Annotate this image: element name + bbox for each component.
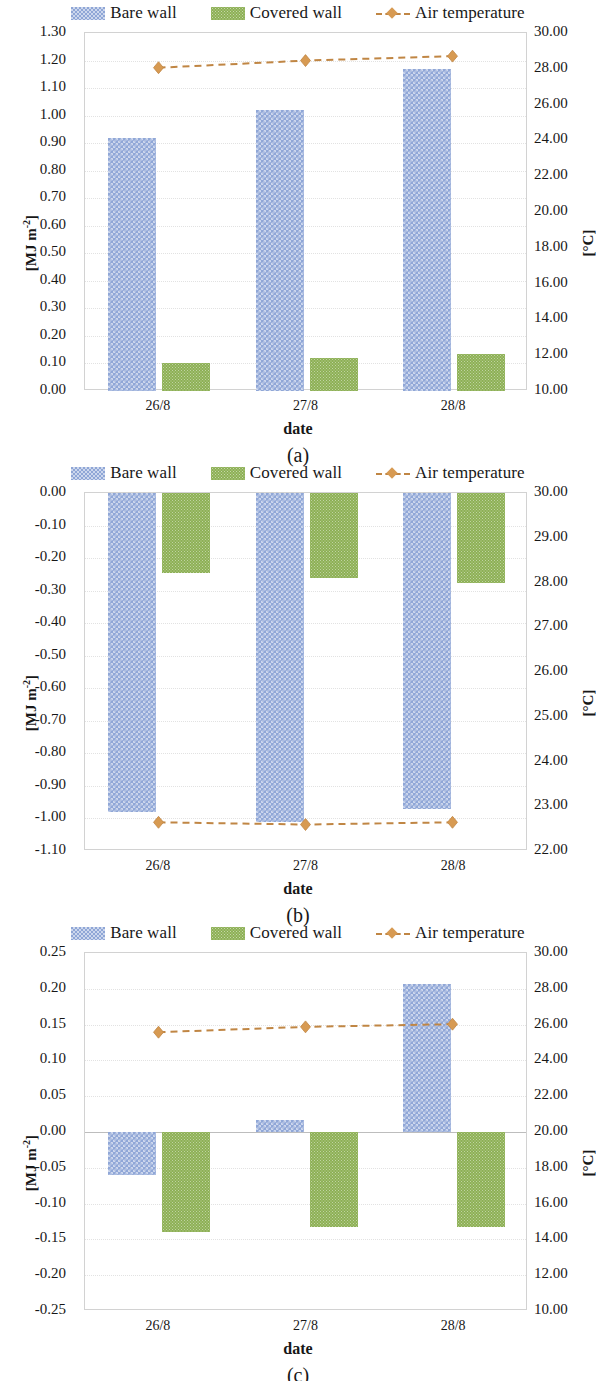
legend-label: Bare wall [110, 923, 177, 943]
plot-area [84, 32, 527, 390]
chart-panel-c: Bare wallCovered wallAir temperature[MJ … [0, 920, 596, 1380]
air-temperature-marker [448, 50, 458, 62]
y2-tick-label: 10.00 [534, 1302, 596, 1317]
y-tick-label: 1.30 [6, 24, 66, 39]
bare-wall-swatch [71, 7, 105, 20]
y-tick-label: 1.10 [6, 79, 66, 94]
legend-item-1[interactable]: Covered wall [211, 3, 342, 23]
x-tick-label: 26/8 [118, 1318, 198, 1334]
air-temperature-marker [154, 816, 164, 828]
y2-tick-label: 14.00 [534, 310, 596, 325]
y-tick-label: -1.10 [6, 842, 66, 857]
legend-item-0[interactable]: Bare wall [71, 923, 177, 943]
air-temperature-marker [301, 55, 311, 67]
y2-tick-label: 26.00 [534, 96, 596, 111]
y2-tick-label: 16.00 [534, 1195, 596, 1210]
y-tick-label: 0.70 [6, 189, 66, 204]
legend-label: Covered wall [250, 3, 342, 23]
legend-item-2[interactable]: Air temperature [376, 3, 525, 23]
y2-tick-label: 28.00 [534, 980, 596, 995]
y-tick-label: -0.05 [6, 1159, 66, 1174]
y2-tick-label: 16.00 [534, 275, 596, 290]
y-tick-label: -0.60 [6, 679, 66, 694]
chart-panel-a: Bare wallCovered wallAir temperature[MJ … [0, 0, 596, 460]
legend-label: Bare wall [110, 463, 177, 483]
legend-item-0[interactable]: Bare wall [71, 3, 177, 23]
plot-area-wrapper: [MJ m-2][°C]-1.10-1.00-0.90-0.80-0.70-0.… [0, 486, 596, 920]
y-tick-label: 0.20 [6, 980, 66, 995]
y2-tick-label: 24.00 [534, 753, 596, 768]
y2-tick-label: 25.00 [534, 708, 596, 723]
plot-area [84, 952, 527, 1310]
y-tick-label: -1.00 [6, 809, 66, 824]
y2-tick-label: 30.00 [534, 24, 596, 39]
legend-item-2[interactable]: Air temperature [376, 923, 525, 943]
covered-wall-swatch [211, 467, 245, 480]
y-tick-label: 0.05 [6, 1087, 66, 1102]
y-tick-label: -0.20 [6, 1266, 66, 1281]
y2-tick-label: 26.00 [534, 1016, 596, 1031]
y-tick-label: 0.15 [6, 1016, 66, 1031]
y-tick-label: -0.90 [6, 777, 66, 792]
x-tick-label: 27/8 [266, 398, 346, 414]
x-tick-label: 27/8 [266, 1318, 346, 1334]
y-tick-label: 0.20 [6, 327, 66, 342]
legend-label: Covered wall [250, 463, 342, 483]
legend-item-1[interactable]: Covered wall [211, 923, 342, 943]
y2-tick-label: 26.00 [534, 663, 596, 678]
bare-wall-swatch [71, 927, 105, 940]
legend-item-2[interactable]: Air temperature [376, 463, 525, 483]
y2-tick-label: 22.00 [534, 1087, 596, 1102]
air-temperature-line-marker [376, 467, 410, 480]
y-tick-label: -0.80 [6, 744, 66, 759]
legend-label: Air temperature [415, 3, 525, 23]
y2-tick-label: 12.00 [534, 1266, 596, 1281]
y-tick-label: -0.20 [6, 549, 66, 564]
bare-wall-swatch [71, 467, 105, 480]
air-temperature-marker [301, 819, 311, 831]
legend-label: Covered wall [250, 923, 342, 943]
y-tick-label: -0.70 [6, 712, 66, 727]
air-temperature-line-marker [376, 7, 410, 20]
x-axis-title: date [0, 880, 596, 898]
legend-label: Bare wall [110, 3, 177, 23]
legend-item-1[interactable]: Covered wall [211, 463, 342, 483]
plot-area-wrapper: [MJ m-2][°C]0.000.100.200.300.400.500.60… [0, 26, 596, 460]
plot-area [84, 492, 527, 850]
y2-tick-label: 22.00 [534, 842, 596, 857]
x-tick-label: 28/8 [413, 858, 493, 874]
y2-tick-label: 20.00 [534, 203, 596, 218]
y-tick-label: 0.40 [6, 272, 66, 287]
air-temperature-marker [448, 1018, 458, 1030]
y-tick-label: 0.00 [6, 382, 66, 397]
y-tick-label: -0.15 [6, 1230, 66, 1245]
y-tick-label: -0.10 [6, 517, 66, 532]
y-tick-label: 0.50 [6, 244, 66, 259]
panel-letter: (c) [0, 1364, 596, 1381]
x-tick-label: 26/8 [118, 858, 198, 874]
x-tick-label: 28/8 [413, 1318, 493, 1334]
air-temperature-marker [448, 816, 458, 828]
y-tick-label: 0.00 [6, 1123, 66, 1138]
y-tick-label: 0.00 [6, 484, 66, 499]
y-tick-label: 0.80 [6, 162, 66, 177]
y2-tick-label: 18.00 [534, 1159, 596, 1174]
y-tick-label: 0.25 [6, 944, 66, 959]
y2-tick-label: 14.00 [534, 1230, 596, 1245]
y2-tick-label: 30.00 [534, 484, 596, 499]
figure-page: Bare wallCovered wallAir temperature[MJ … [0, 0, 596, 1381]
legend-item-0[interactable]: Bare wall [71, 463, 177, 483]
air-temperature-marker [301, 1021, 311, 1033]
y2-tick-label: 30.00 [534, 944, 596, 959]
y2-tick-label: 10.00 [534, 382, 596, 397]
y-tick-label: 1.00 [6, 107, 66, 122]
air-temperature-line-marker [376, 927, 410, 940]
chart-legend: Bare wallCovered wallAir temperature [0, 920, 596, 946]
chart-panel-b: Bare wallCovered wallAir temperature[MJ … [0, 460, 596, 920]
y2-tick-label: 29.00 [534, 529, 596, 544]
plot-area-wrapper: [MJ m-2][°C]-0.25-0.20-0.15-0.10-0.050.0… [0, 946, 596, 1380]
air-temperature-marker [154, 62, 164, 74]
y2-tick-label: 24.00 [534, 1051, 596, 1066]
covered-wall-swatch [211, 927, 245, 940]
air-temperature-series [85, 33, 526, 389]
